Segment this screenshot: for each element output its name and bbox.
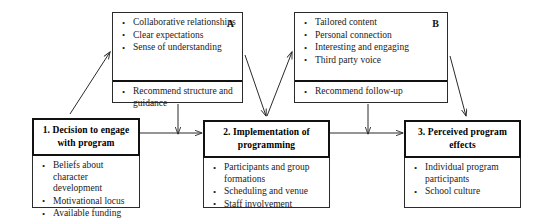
box-3-list: Individual program participants School c…	[414, 162, 514, 198]
list-item: Clear expectations	[122, 30, 236, 42]
list-item: Recommend follow-up	[304, 86, 441, 98]
list-item: Beliefs about character development	[42, 160, 133, 195]
box-3-title: 3. Perceived program effects	[404, 120, 521, 158]
arrow-box2-to-boxb	[267, 52, 292, 116]
arrow-boxb-to-box3	[450, 56, 466, 116]
list-item: Scheduling and venue	[213, 186, 323, 198]
list-item: Personal connection	[304, 30, 441, 42]
box-b-top-list: Tailored content Personal connection Int…	[304, 17, 441, 66]
list-item: School culture	[414, 186, 514, 198]
list-item: Staff involvement	[213, 199, 323, 211]
box-1-title: 1. Decision to engage with program	[32, 118, 140, 156]
box-a-top-section: A Collaborative relationships Clear expe…	[113, 13, 242, 80]
box-b-bottom-section: Recommend follow-up	[295, 80, 447, 103]
list-item: Third party voice	[304, 55, 441, 67]
node-box-2[interactable]: 2. Implementation of programming Partici…	[203, 120, 330, 208]
flow-diagram: A Collaborative relationships Clear expe…	[0, 0, 541, 220]
box-a-bottom-list: Recommend structure and guidance	[122, 86, 236, 109]
list-item: Recommend structure and guidance	[122, 86, 236, 109]
list-item: Individual program participants	[414, 162, 514, 185]
list-item: Sense of understanding	[122, 42, 236, 54]
list-item: Participants and group formations	[213, 162, 323, 185]
box-a-bottom-section: Recommend structure and guidance	[113, 80, 242, 114]
box-a-top-list: Collaborative relationships Clear expect…	[122, 17, 236, 54]
box-2-title: 2. Implementation of programming	[203, 120, 330, 158]
arrow-boxa-to-box2	[245, 55, 266, 116]
list-item: Motivational locus	[42, 196, 133, 208]
node-box-b[interactable]: B Tailored content Personal connection I…	[294, 12, 448, 103]
node-box-a[interactable]: A Collaborative relationships Clear expe…	[112, 12, 243, 103]
arrow-box1-to-boxa	[70, 52, 110, 114]
node-box-3[interactable]: 3. Perceived program effects Individual …	[404, 120, 521, 208]
list-item: Available funding	[42, 208, 133, 220]
box-b-bottom-list: Recommend follow-up	[304, 86, 441, 98]
list-item: Interesting and engaging	[304, 42, 441, 54]
box-1-list: Beliefs about character development Moti…	[42, 160, 133, 220]
node-box-1[interactable]: 1. Decision to engage with program Belie…	[32, 118, 140, 208]
box-2-body: Participants and group formations Schedu…	[204, 157, 329, 215]
box-3-body: Individual program participants School c…	[405, 157, 520, 203]
box-b-top-section: B Tailored content Personal connection I…	[295, 13, 447, 80]
list-item: Collaborative relationships	[122, 17, 236, 29]
box-2-list: Participants and group formations Schedu…	[213, 162, 323, 210]
box-1-body: Beliefs about character development Moti…	[33, 155, 139, 220]
list-item: Tailored content	[304, 17, 441, 29]
